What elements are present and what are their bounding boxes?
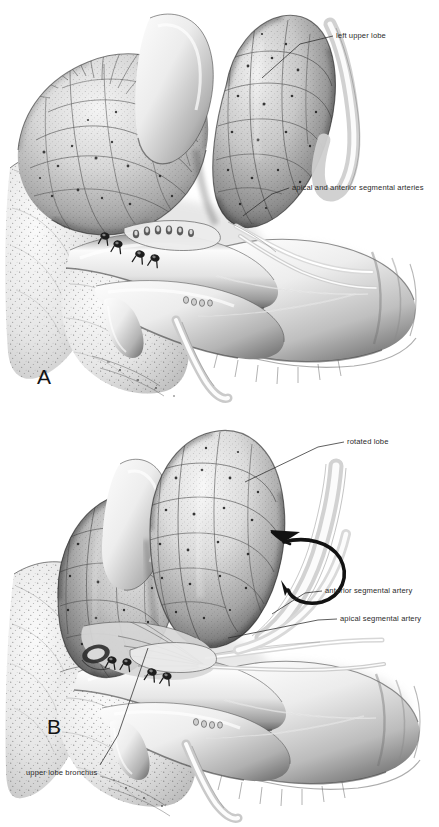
panel-a [0,0,439,410]
panel-letter-a: A [37,365,51,389]
label-left-upper-lobe: left upper lobe [336,31,386,40]
label-upper-lobe-bronchus: upper lobe bronchus [26,768,98,777]
panel-letter-b: B [47,715,61,739]
panel-a-illustration [0,0,439,410]
label-apical-segmental-artery: apical segmental artery [340,614,421,623]
label-apical-and-anterior-segmental-arteries: apical and anterior segmental arteries [292,183,424,192]
figure-container: left upper lobe apical and anterior segm… [0,0,439,827]
label-anterior-segmental-artery: anterior segmental artery [325,586,412,595]
label-rotated-lobe: rotated lobe [347,437,389,446]
